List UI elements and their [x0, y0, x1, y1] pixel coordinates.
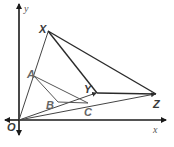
dilation-diagram: x y O X Y Z A B C: [0, 0, 174, 147]
vertex-label-x: X: [38, 23, 47, 35]
vertex-label-y: Y: [84, 83, 93, 95]
origin-label: O: [7, 121, 16, 133]
vertex-label-a: A: [26, 68, 35, 80]
vertex-label-c: C: [84, 106, 93, 118]
side-ac: [34, 76, 88, 103]
side-yz: [97, 93, 156, 94]
vertex-label-z: Z: [152, 98, 161, 110]
side-xz: [48, 31, 156, 94]
x-axis-label: x: [152, 124, 158, 135]
y-axis-label: y: [23, 3, 29, 14]
vertex-label-b: B: [46, 99, 54, 111]
side-bc: [58, 102, 88, 103]
triangle-xyz: X Y Z: [38, 23, 161, 110]
